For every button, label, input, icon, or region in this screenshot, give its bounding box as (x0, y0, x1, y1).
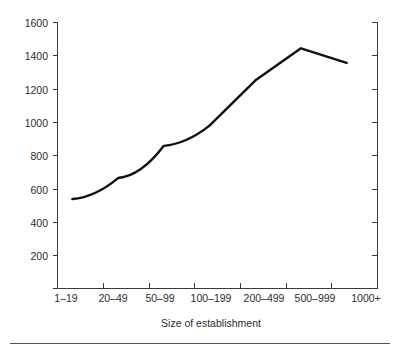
x-axis-tick-labels: 1–19 20–49 50–99 100–199 200–499 500–999… (54, 292, 380, 304)
y-tick-marks (53, 23, 58, 289)
y-tick-label: 1600 (25, 17, 49, 29)
y-tick-marks-right (372, 23, 378, 256)
x-tick-label: 200–499 (244, 292, 285, 304)
y-tick-label: 1400 (25, 50, 49, 62)
chart-figure: 200 400 600 800 1000 1200 1400 1600 1–19… (0, 0, 405, 354)
data-series-line (72, 48, 346, 199)
x-tick-marks (104, 283, 332, 289)
x-tick-label: 100–199 (191, 292, 232, 304)
x-axis-title: Size of establishment (161, 317, 261, 329)
x-tick-label: 50–99 (145, 292, 174, 304)
y-tick-label: 600 (30, 184, 48, 196)
y-tick-label: 1000 (25, 117, 49, 129)
x-tick-label: 20–49 (98, 292, 127, 304)
y-axis-tick-labels: 200 400 600 800 1000 1200 1400 1600 (25, 17, 49, 262)
y-tick-label: 1200 (25, 84, 49, 96)
line-chart: 200 400 600 800 1000 1200 1400 1600 1–19… (0, 0, 405, 354)
x-tick-label: 1–19 (54, 292, 78, 304)
axis-frame (58, 23, 378, 289)
y-tick-label: 400 (30, 217, 48, 229)
y-tick-label: 200 (30, 250, 48, 262)
x-tick-label: 1000+ (351, 292, 381, 304)
y-tick-label: 800 (30, 150, 48, 162)
x-tick-label: 500–999 (295, 292, 336, 304)
